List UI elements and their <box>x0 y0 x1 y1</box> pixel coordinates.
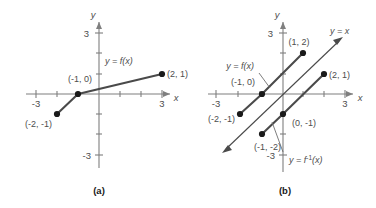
panel-b-label-neg1-neg2: (-1, -2) <box>254 142 281 152</box>
panel-a: y x -3 3 3 -3 y = f(x) (-1, 0) (2, 1) (-… <box>25 9 188 196</box>
panel-b-y-axis-name: y <box>274 9 281 20</box>
panel-a-point-neg2-neg1 <box>54 111 60 117</box>
panel-a-label-neg2-neg1: (-2, -1) <box>25 119 52 129</box>
panel-a-xtick-neg3: -3 <box>32 98 40 109</box>
panel-b-ytick-3: 3 <box>268 28 273 39</box>
panel-a-y-axis <box>95 22 103 168</box>
panel-a-y-axis-name: y <box>90 9 97 20</box>
panel-b-point-2-1 <box>321 71 327 77</box>
panel-b-point-neg1-0 <box>259 91 265 97</box>
panel-b-point-neg1-neg2 <box>259 131 265 137</box>
panel-a-ytick-3: 3 <box>84 28 89 39</box>
panel-b-point-1-2 <box>300 50 306 56</box>
panel-b-label-2-1: (2, 1) <box>329 70 350 80</box>
panel-b-label-1-2: (1, 2) <box>288 37 309 47</box>
panel-a-label-2-1: (2, 1) <box>167 69 188 79</box>
panel-b-label-neg2-neg1: (-2, -1) <box>208 114 235 124</box>
panel-b-xtick-3: 3 <box>342 98 347 109</box>
panel-a-label-neg1-0: (-1, 0) <box>68 74 92 84</box>
panel-b-label-f: y = f(x) <box>225 61 254 71</box>
panel-b: y x -3 3 3 -3 y = f(x) y = f-1(x <box>208 9 364 196</box>
figure-container: y x -3 3 3 -3 y = f(x) (-1, 0) (2, 1) (-… <box>0 0 376 208</box>
panel-b-point-neg2-neg1 <box>237 111 243 117</box>
panel-a-x-axis-name: x <box>173 92 180 103</box>
panel-b-label-f-inverse-prefix: y = f <box>288 155 308 165</box>
panel-b-label-identity: y = x <box>329 26 350 36</box>
panel-b-caption: (b) <box>279 185 291 196</box>
panel-b-point-0-neg1 <box>280 111 286 117</box>
panel-b-x-axis-name: x <box>357 92 364 103</box>
panel-b-label-neg1-0: (-1, 0) <box>231 77 255 87</box>
panel-a-caption: (a) <box>93 185 105 196</box>
panel-b-leader-f <box>259 73 270 88</box>
panel-a-ytick-neg3: -3 <box>83 150 91 161</box>
panel-b-label-f-inverse: y = f-1(x) <box>288 154 323 165</box>
panel-a-xtick-3: 3 <box>159 98 164 109</box>
panel-b-xtick-neg3: -3 <box>212 98 220 109</box>
svg-text:y = f-1(x): y = f-1(x) <box>288 154 323 165</box>
panel-a-point-2-1 <box>159 71 165 77</box>
panel-a-label-f: y = f(x) <box>104 56 133 66</box>
panel-a-x-axis <box>26 90 170 98</box>
panel-a-point-neg1-0 <box>75 91 81 97</box>
panel-b-label-0-neg1: (0, -1) <box>292 118 316 128</box>
panel-b-label-f-inverse-suffix: (x) <box>312 155 323 165</box>
